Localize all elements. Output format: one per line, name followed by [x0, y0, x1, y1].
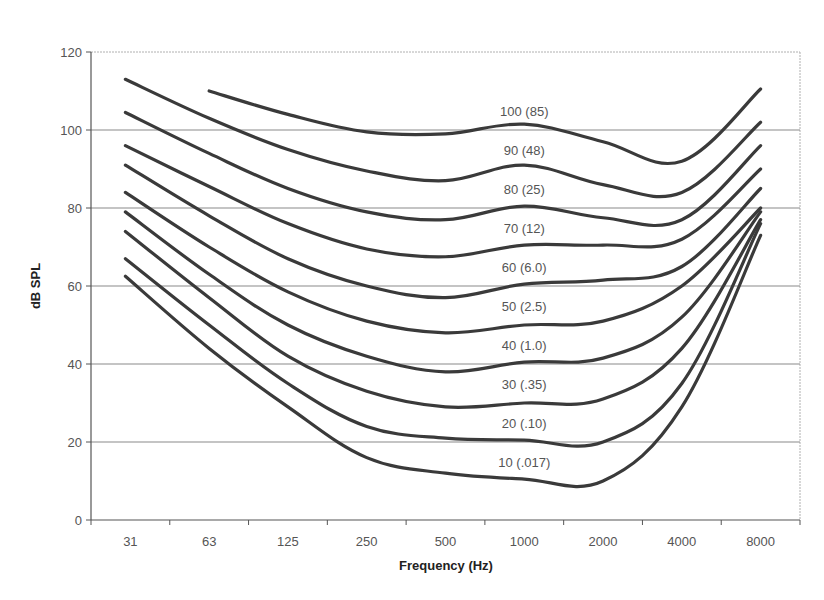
curve-label: 40 (1.0) — [502, 338, 547, 353]
curve-label: 80 (25) — [504, 182, 545, 197]
x-axis-title: Frequency (Hz) — [399, 558, 493, 573]
curve-label: 90 (48) — [504, 143, 545, 158]
gridlines — [91, 52, 800, 520]
y-tick-label: 20 — [68, 435, 82, 450]
x-tick-label: 4000 — [667, 534, 696, 549]
y-tick-label: 60 — [68, 279, 82, 294]
y-tick-label: 120 — [60, 45, 82, 60]
curve-label: 10 (.017) — [498, 455, 550, 470]
curve-label: 20 (.10) — [502, 416, 547, 431]
y-tick-label: 40 — [68, 357, 82, 372]
x-tick-label: 250 — [356, 534, 378, 549]
loudness-curve — [125, 79, 760, 196]
curve-label: 100 (85) — [500, 104, 548, 119]
x-tick-label: 8000 — [746, 534, 775, 549]
loudness-curve — [125, 192, 760, 332]
y-tick-label: 80 — [68, 201, 82, 216]
x-tick-label: 125 — [277, 534, 299, 549]
loudness-curve — [125, 165, 760, 298]
y-tick-label: 0 — [75, 513, 82, 528]
x-tick-label: 500 — [435, 534, 457, 549]
y-tick-label: 100 — [60, 123, 82, 138]
y-axis-title: dB SPL — [28, 263, 43, 309]
curve-label: 30 (.35) — [502, 377, 547, 392]
curves — [125, 79, 760, 486]
curve-label: 60 (6.0) — [502, 260, 547, 275]
curve-label: 70 (12) — [504, 221, 545, 236]
curve-label: 50 (2.5) — [502, 299, 547, 314]
loudness-curve — [125, 212, 760, 372]
loudness-curve — [125, 220, 760, 408]
x-tick-label: 2000 — [589, 534, 618, 549]
equal-loudness-chart: 0204060801001203163125250500100020004000… — [0, 0, 824, 600]
x-tick-label: 63 — [202, 534, 216, 549]
x-tick-label: 1000 — [510, 534, 539, 549]
x-tick-label: 31 — [123, 534, 137, 549]
chart-canvas: 0204060801001203163125250500100020004000… — [0, 0, 824, 600]
